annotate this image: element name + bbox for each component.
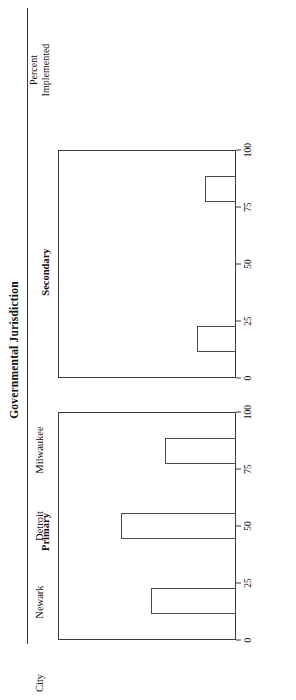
rotated-figure-stage: Governmental Jurisdiction Primary Second… xyxy=(0,0,296,700)
axis-tick-label: 50 xyxy=(243,251,253,277)
value-axis-title: Percent Implemented xyxy=(28,6,51,134)
bar-slot xyxy=(59,488,235,563)
axis-tick-label: 75 xyxy=(243,456,253,482)
bar-secondary-milwaukee xyxy=(205,176,235,202)
panel-title-secondary: Secondary xyxy=(40,212,51,332)
value-axis-title-line2: Implemented xyxy=(40,6,52,134)
page-title: Governmental Jurisdiction xyxy=(8,0,20,700)
bar-slot xyxy=(59,226,235,301)
axis-tick xyxy=(236,640,241,641)
axis-tick xyxy=(236,412,241,413)
axis-tick-label: 100 xyxy=(243,399,253,425)
value-axis-primary: 0255075100 xyxy=(236,412,262,640)
category-label-milwaukee: Milwaukee xyxy=(34,390,45,510)
chart-panel-primary xyxy=(58,412,236,640)
figure: Governmental Jurisdiction Primary Second… xyxy=(0,0,296,700)
chart-panel-secondary xyxy=(58,150,236,378)
plot-area-primary xyxy=(59,413,235,639)
category-axis-header: City xyxy=(34,674,45,692)
bar-slot xyxy=(59,413,235,488)
axis-tick xyxy=(236,150,241,151)
bar-slot xyxy=(59,302,235,377)
value-axis-secondary: 0255075100 xyxy=(236,150,262,378)
bar-primary-milwaukee xyxy=(165,438,235,464)
axis-tick-label: 0 xyxy=(243,627,253,653)
axis-tick-label: 100 xyxy=(243,137,253,163)
bar-slot xyxy=(59,151,235,226)
plot-area-secondary xyxy=(59,151,235,377)
axis-tick xyxy=(236,264,241,265)
bar-secondary-newark xyxy=(197,326,236,352)
bar-primary-newark xyxy=(151,588,235,614)
value-axis-title-line1: Percent xyxy=(28,6,40,134)
axis-tick-label: 0 xyxy=(243,365,253,391)
axis-tick xyxy=(236,207,241,208)
bar-slot xyxy=(59,564,235,639)
axis-tick-label: 25 xyxy=(243,308,253,334)
axis-tick xyxy=(236,583,241,584)
axis-tick xyxy=(236,321,241,322)
axis-tick xyxy=(236,469,241,470)
axis-tick xyxy=(236,526,241,527)
axis-tick xyxy=(236,378,241,379)
axis-tick-label: 25 xyxy=(243,570,253,596)
axis-tick-label: 75 xyxy=(243,194,253,220)
axis-tick-label: 50 xyxy=(243,513,253,539)
bar-primary-detroit xyxy=(121,513,235,539)
